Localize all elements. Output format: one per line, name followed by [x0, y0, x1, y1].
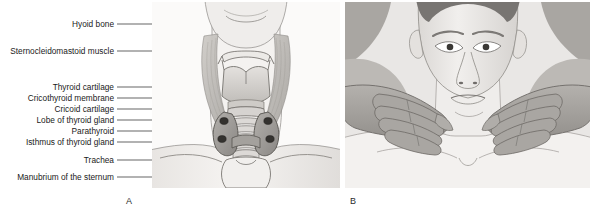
panel-a-illustration	[152, 2, 340, 188]
anatomy-figure: Hyoid bone Sternocleidomastoid muscle Th…	[0, 0, 592, 216]
parathyroid-inferior-right	[266, 136, 274, 143]
label-cricoid-cartilage: Cricoid cartilage	[55, 104, 114, 114]
nostril-right	[473, 82, 477, 85]
panel-a-anatomy	[152, 2, 340, 188]
panel-letter-b: B	[350, 196, 356, 206]
pupil-left	[447, 44, 454, 51]
panel-b-palpation	[345, 2, 590, 188]
parathyroid-inferior-left	[218, 136, 226, 143]
panel-b-illustration	[345, 2, 590, 188]
parathyroid-superior-left	[220, 118, 228, 125]
nostril-left	[459, 82, 463, 85]
label-cricothyroid-membrane: Cricothyroid membrane	[28, 93, 114, 103]
label-hyoid-bone: Hyoid bone	[72, 19, 114, 29]
label-column: Hyoid bone Sternocleidomastoid muscle Th…	[0, 0, 152, 190]
manubrium-shape	[222, 157, 271, 188]
panel-letter-a: A	[126, 196, 132, 206]
label-trachea: Trachea	[84, 155, 114, 165]
label-manubrium-of-the-sternum: Manubrium of the sternum	[17, 172, 114, 182]
label-lobe-of-thyroid-gland: Lobe of thyroid gland	[37, 115, 115, 125]
parathyroid-superior-right	[264, 118, 272, 125]
label-sternocleidomastoid: Sternocleidomastoid muscle	[0, 46, 114, 57]
label-isthmus-of-thyroid-gland: Isthmus of thyroid gland	[26, 137, 114, 147]
label-thyroid-cartilage: Thyroid cartilage	[53, 82, 114, 92]
pupil-right	[483, 44, 490, 51]
label-parathyroid: Parathyroid	[72, 126, 114, 136]
patient-chest	[345, 129, 590, 188]
